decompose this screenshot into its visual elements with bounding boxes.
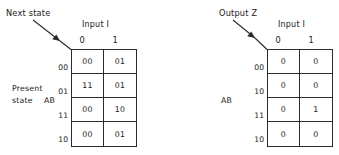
table-cell: 01 [104, 74, 136, 98]
output-z-grid: 0 0 0 0 0 1 0 0 [267, 49, 333, 147]
output-z-caption: Output Z [219, 9, 257, 17]
table-cell: 01 [104, 50, 136, 74]
table-cell: 0 [268, 50, 300, 74]
output-z-row-header-2: 10 [242, 88, 264, 96]
next-state-row-caption-variable: AB [44, 97, 55, 105]
next-state-row-header-01: 01 [46, 88, 68, 96]
next-state-row-caption-line2: state [12, 97, 33, 105]
figure-canvas: Next state Input I 0 1 Present state AB … [0, 0, 339, 155]
table-cell: 11 [72, 74, 104, 98]
output-z-column-header-1: 1 [300, 36, 322, 44]
output-z-column-header-0: 0 [267, 36, 289, 44]
table-cell: 00 [72, 122, 104, 146]
output-z-row-header-4: 10 [242, 136, 264, 144]
output-z-row-header-3: 11 [242, 112, 264, 120]
output-z-row-header-1: 00 [242, 64, 264, 72]
next-state-column-group-title: Input I [82, 21, 109, 29]
next-state-column-header-1: 1 [104, 36, 126, 44]
table-cell: 0 [300, 122, 332, 146]
next-state-row-header-11: 11 [46, 112, 68, 120]
next-state-row-caption-line1: Present [12, 85, 43, 93]
table-cell: 00 [72, 50, 104, 74]
table-cell: 0 [300, 50, 332, 74]
next-state-column-header-0: 0 [71, 36, 93, 44]
output-z-row-caption-variable: AB [221, 97, 232, 105]
table-cell: 1 [300, 98, 332, 122]
next-state-grid: 00 01 11 01 00 10 00 01 [71, 49, 137, 147]
next-state-row-header-00: 00 [46, 64, 68, 72]
table-cell: 0 [268, 122, 300, 146]
table-cell: 0 [268, 98, 300, 122]
table-cell: 01 [104, 122, 136, 146]
next-state-caption: Next state [6, 9, 50, 17]
table-cell: 10 [104, 98, 136, 122]
next-state-row-header-10: 10 [46, 136, 68, 144]
output-z-column-group-title: Input I [278, 21, 305, 29]
table-cell: 0 [268, 74, 300, 98]
table-cell: 0 [300, 74, 332, 98]
table-cell: 00 [72, 98, 104, 122]
